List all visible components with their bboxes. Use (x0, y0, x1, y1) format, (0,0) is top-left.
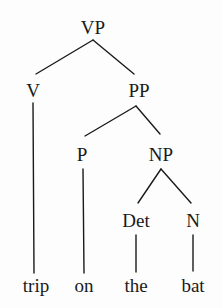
node-vp: VP (81, 17, 105, 38)
edge-vp-pp (93, 40, 134, 74)
edge-vp-v (36, 40, 93, 74)
edge-pp-p (85, 106, 136, 136)
node-np: NP (149, 144, 173, 165)
node-p: P (77, 144, 88, 165)
syntax-tree-diagram: VP V PP P NP Det N trip on the bat (0, 0, 222, 308)
tree-canvas: VP V PP P NP Det N trip on the bat (0, 0, 222, 308)
word-trip: trip (23, 275, 49, 296)
node-det: Det (122, 210, 150, 231)
edge-pp-np (136, 106, 160, 134)
word-on: on (75, 275, 95, 296)
tree-nodes: VP V PP P NP Det N (26, 17, 200, 231)
edge-np-det (138, 169, 161, 203)
edge-p-on (83, 169, 84, 273)
word-bat: bat (181, 275, 205, 296)
word-the: the (124, 275, 147, 296)
node-v: V (26, 80, 40, 101)
node-n: N (186, 210, 200, 231)
edge-np-n (161, 169, 191, 203)
tree-words: trip on the bat (23, 275, 206, 296)
node-pp: PP (128, 80, 149, 101)
edge-v-trip (33, 103, 34, 273)
